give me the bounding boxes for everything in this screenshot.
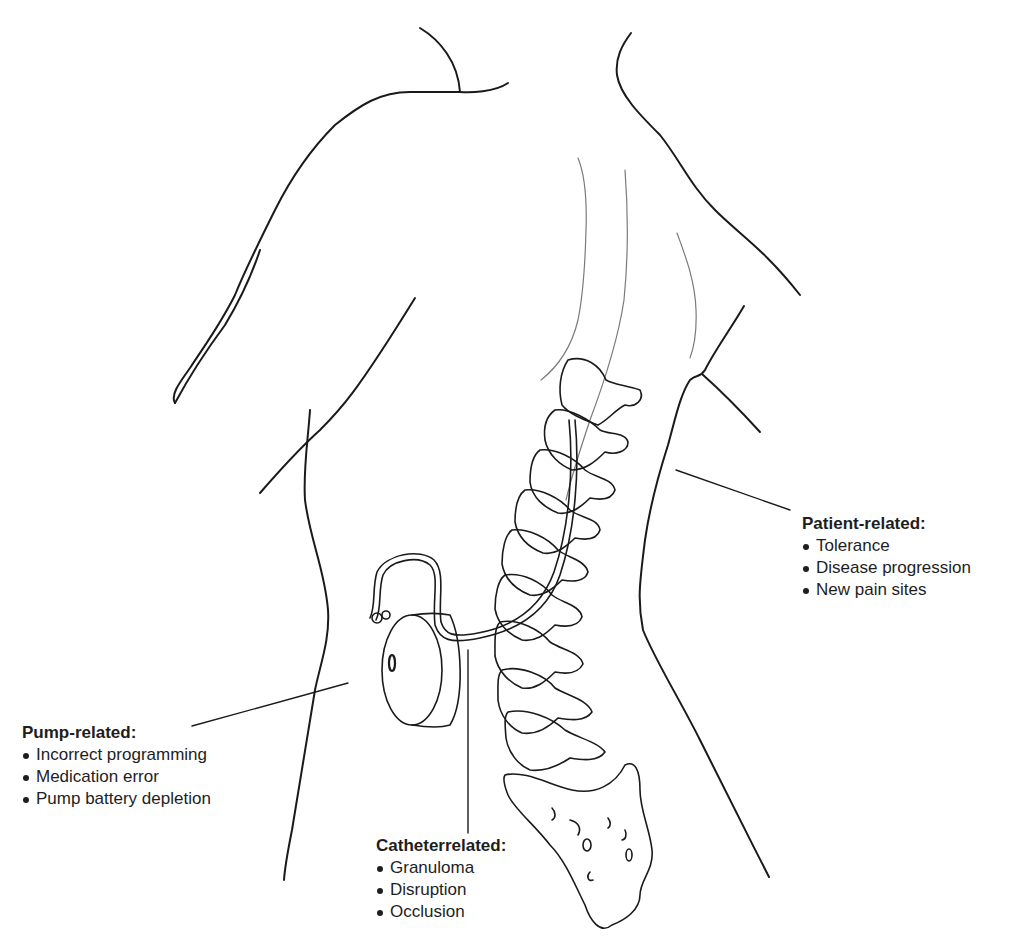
pump-related-title: Pump-related: xyxy=(22,722,211,744)
body-outline-right xyxy=(617,33,800,877)
pump-related-list: Incorrect programming Medication error P… xyxy=(22,744,211,810)
leader-lines xyxy=(192,470,790,833)
list-item: Disease progression xyxy=(802,557,971,579)
body-outline-left-torso xyxy=(260,298,415,880)
list-item: Granuloma xyxy=(376,857,506,879)
patient-leader-line xyxy=(676,470,790,510)
list-item: Medication error xyxy=(22,766,211,788)
pump-leader-line xyxy=(192,683,348,726)
pump-related-label: Pump-related: Incorrect programming Medi… xyxy=(22,722,211,810)
patient-related-list: Tolerance Disease progression New pain s… xyxy=(802,535,971,601)
catheter-related-title: Catheterrelated: xyxy=(376,835,506,857)
back-contour-lines xyxy=(541,158,696,500)
list-item: Disruption xyxy=(376,879,506,901)
list-item: Tolerance xyxy=(802,535,971,557)
list-item: Incorrect programming xyxy=(22,744,211,766)
catheter-related-list: Granuloma Disruption Occlusion xyxy=(376,857,506,923)
catheter xyxy=(370,420,577,641)
patient-related-title: Patient-related: xyxy=(802,513,971,535)
patient-related-label: Patient-related: Tolerance Disease progr… xyxy=(802,513,971,601)
list-item: Pump battery depletion xyxy=(22,788,211,810)
body-outline-left xyxy=(174,28,508,403)
list-item: Occlusion xyxy=(376,901,506,923)
catheter-related-label: Catheterrelated: Granuloma Disruption Oc… xyxy=(376,835,506,923)
list-item: New pain sites xyxy=(802,579,971,601)
pump-device xyxy=(372,611,460,727)
spine-vertebrae xyxy=(495,359,652,929)
